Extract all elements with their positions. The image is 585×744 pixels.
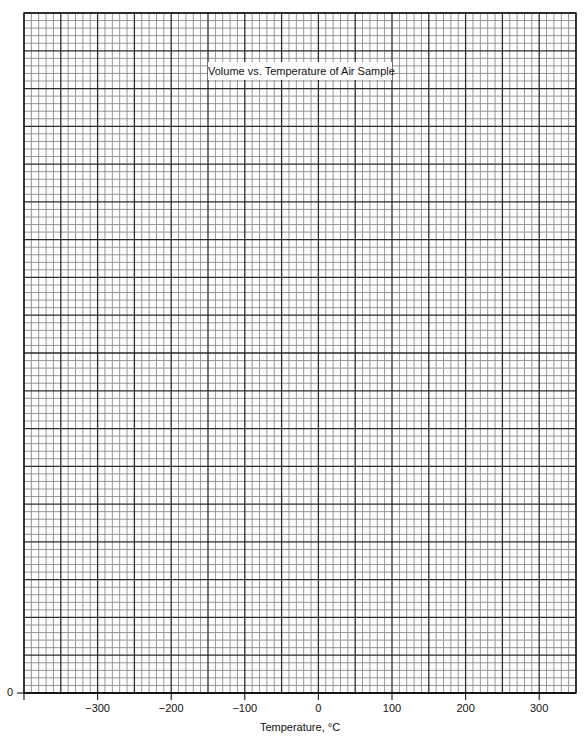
- x-tick-label: 0: [293, 702, 343, 715]
- x-tick-label: 300: [514, 702, 564, 715]
- x-tick-label: −100: [220, 702, 270, 715]
- chart-title: Volume vs. Temperature of Air Sample: [208, 62, 392, 80]
- graph-paper-grid: [0, 0, 585, 744]
- y-axis-zero-label: 0: [7, 686, 13, 699]
- x-tick-label: 100: [367, 702, 417, 715]
- x-tick-label: −300: [73, 702, 123, 715]
- x-axis-label: Temperature, °C: [220, 720, 380, 734]
- x-tick-label: 200: [441, 702, 491, 715]
- x-tick-label: −200: [146, 702, 196, 715]
- major-grid-lines: [24, 13, 576, 693]
